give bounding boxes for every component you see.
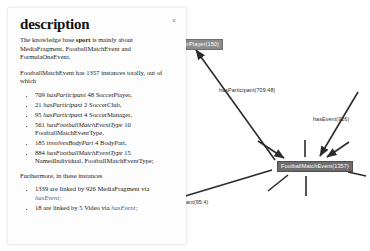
furthermore-paragraph: Furthermore, in these instances	[20, 172, 176, 181]
link-by-count: 926	[86, 185, 96, 192]
stats-list: 709 hasParticipant 48 SoccerPlayer, 21 h…	[20, 91, 176, 166]
summary-paragraph: FootballMatchEvent has 1357 instances to…	[20, 69, 176, 86]
edge-has-participant-95	[172, 170, 272, 200]
stat-count: 884	[35, 149, 45, 156]
link-via-word: via	[141, 185, 149, 192]
graph-node-football-match-event[interactable]: FootballMatchEvent(1357)	[277, 161, 353, 172]
list-item: 1339 are linked by 926 MediaFragment via…	[35, 185, 176, 202]
stat-relation: hasParticipant	[43, 111, 82, 118]
link-by-count: 5	[79, 204, 82, 211]
edge-has-event-926	[320, 92, 358, 156]
description-panel: description × The knowledge base sport i…	[8, 8, 186, 244]
edge-label-has-event-926: hasEvent(926)	[313, 116, 349, 122]
link-middle: are linked by	[43, 204, 77, 211]
intro-keyword: sport	[76, 36, 91, 43]
stat-count: 709	[35, 91, 45, 98]
list-item: 561 hasFootballMatchEventType 10 Footbal…	[35, 121, 176, 138]
link-by-type: Video	[84, 204, 100, 211]
stat-target: BodyPart,	[100, 139, 127, 146]
stat-count: 95	[35, 111, 42, 118]
link-via-word: via	[102, 204, 110, 211]
link-count: 1339	[35, 185, 48, 192]
close-icon[interactable]: ×	[172, 17, 176, 24]
list-item: 21 hasParticipant 2 SoccerClub,	[35, 101, 176, 109]
edge-stub-top-right	[327, 142, 349, 157]
stat-count: 21	[35, 101, 42, 108]
stat-relation: hasFootballMatchEventType	[47, 121, 123, 128]
stat-target-count: 2	[84, 101, 87, 108]
stat-count: 185	[35, 139, 45, 146]
page-title: description	[20, 14, 176, 34]
intro-paragraph: The knowledge base sport is mainly about…	[20, 36, 176, 62]
edge-stub-bottom-left	[268, 175, 288, 191]
list-item: 18 are linked by 5 Video via hasEvent;	[35, 204, 176, 212]
link-by-type: MediaFragment	[97, 185, 139, 192]
stat-target-count: 10	[124, 121, 131, 128]
stat-relation: hasFootballMatchEventType	[47, 149, 123, 156]
intro-prefix: The knowledge base	[20, 36, 76, 43]
stat-target: SoccerPlayer,	[96, 91, 132, 98]
link-middle: are linked by	[50, 185, 84, 192]
stat-relation: hasParticipant	[43, 101, 82, 108]
list-item: 185 involvesBodyPart 4 BodyPart,	[35, 139, 176, 147]
list-item: 884 hasFootballMatchEventType 15 NamedIn…	[35, 149, 176, 166]
list-item: 95 hasParticipant 4 SoccerManager,	[35, 111, 176, 119]
stat-relation: involvesBodyPart	[47, 139, 94, 146]
stat-target-count: 48	[87, 91, 94, 98]
stat-target: SoccerClub,	[89, 101, 121, 108]
edge-label-has-participant-709: hasParticipant(709:48)	[219, 87, 275, 93]
links-list: 1339 are linked by 926 MediaFragment via…	[20, 185, 176, 212]
link-count: 18	[35, 204, 42, 211]
stat-target: NamedIndividual, FootballMatchEventType;	[35, 157, 154, 164]
list-item: 709 hasParticipant 48 SoccerPlayer,	[35, 91, 176, 99]
panel-header: description ×	[20, 14, 176, 36]
link-relation: hasEvent;	[35, 194, 61, 201]
edge-label-has-participant-95: ant(95:4)	[186, 199, 208, 205]
stat-count: 561	[35, 121, 45, 128]
stat-target-count: 4	[95, 139, 98, 146]
stat-target-count: 4	[84, 111, 87, 118]
stat-target: SoccerManager,	[89, 111, 132, 118]
edge-stub-right	[348, 172, 366, 176]
panel-body: The knowledge base sport is mainly about…	[20, 36, 176, 212]
stat-relation: hasParticipant	[47, 91, 86, 98]
stat-target: FootballMatchEventType,	[35, 129, 104, 136]
stat-target-count: 15	[124, 149, 131, 156]
link-relation: hasEvent;	[111, 204, 137, 211]
